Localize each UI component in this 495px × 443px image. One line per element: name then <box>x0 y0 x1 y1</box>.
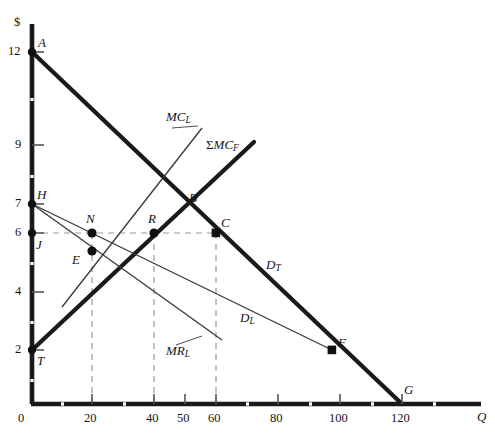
point-dot-E <box>87 246 96 255</box>
reference-lines <box>31 233 216 404</box>
sigma-symbol: Σ <box>206 137 214 152</box>
curve-label-mc-l-sub: L <box>186 115 191 125</box>
x-tick-40: 40 <box>146 412 159 425</box>
y-tick-12: 12 <box>8 45 21 58</box>
curve-label-mr-l-sub: L <box>185 349 190 359</box>
leader-lines <box>172 126 202 345</box>
y-tick-7: 7 <box>15 197 21 210</box>
point-label-C: C <box>221 216 230 229</box>
curve-label-mr-l-head: MR <box>166 343 185 358</box>
curve-label-mr-l: MRL <box>166 344 190 360</box>
point-dot-R <box>149 228 158 237</box>
curve-label-d-t: DT <box>266 258 281 274</box>
point-label-R: R <box>148 212 156 225</box>
point-label-F: F <box>338 336 346 349</box>
diagram-canvas <box>0 0 495 443</box>
curve-label-sum-mc-f-sub: F <box>233 143 239 153</box>
curve-mc-l <box>62 128 202 307</box>
curve-label-d-l-head: D <box>240 310 249 325</box>
y-tick-2: 2 <box>15 343 21 356</box>
origin-label: 0 <box>18 412 24 425</box>
point-dot-C <box>212 229 221 238</box>
leader-mc-l <box>172 126 198 128</box>
point-dot-A <box>28 48 36 56</box>
point-label-G: G <box>404 383 413 396</box>
curve-label-mc-l: MCL <box>166 110 191 126</box>
x-tick-80: 80 <box>270 412 283 425</box>
curve-sum-mc-f <box>32 142 254 350</box>
x-tick-50: 50 <box>177 412 190 425</box>
point-label-A: A <box>38 36 46 49</box>
point-label-N: N <box>86 212 95 225</box>
point-label-J: J <box>36 238 42 251</box>
point-label-T: T <box>37 354 44 367</box>
x-tick-60: 60 <box>208 412 221 425</box>
y-tick-4: 4 <box>15 285 21 298</box>
curve-label-sum-mc-f-head: MC <box>214 137 234 152</box>
point-label-E: E <box>72 253 80 266</box>
point-label-B: B <box>189 191 197 204</box>
y-axis-title: $ <box>14 16 20 29</box>
point-dot-J <box>28 229 36 237</box>
point-dot-H <box>28 200 36 208</box>
x-tick-20: 20 <box>84 412 97 425</box>
curve-label-d-l-sub: L <box>249 316 254 326</box>
y-tick-6: 6 <box>15 226 21 239</box>
point-dot-N <box>87 228 96 237</box>
point-label-H: H <box>37 188 46 201</box>
curve-label-mc-l-head: MC <box>166 109 186 124</box>
curve-label-d-l: DL <box>240 311 255 327</box>
point-dot-F <box>328 346 337 355</box>
economics-diagram: $ Q 0 12 9 7 6 4 2 20 40 50 60 80 100 12… <box>0 0 495 443</box>
curve-label-d-t-head: D <box>266 257 275 272</box>
x-tick-120: 120 <box>391 412 410 425</box>
y-tick-9: 9 <box>15 138 21 151</box>
x-tick-100: 100 <box>329 412 348 425</box>
curve-d-t <box>32 52 402 404</box>
point-dot-T <box>28 346 36 354</box>
curve-d-l <box>32 204 332 350</box>
x-axis-title: Q <box>477 410 486 423</box>
curve-label-sum-mc-f: ΣMCF <box>206 138 239 154</box>
curve-label-d-t-sub: T <box>275 263 280 273</box>
